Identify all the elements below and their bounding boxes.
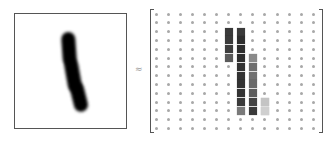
zero-dot bbox=[239, 127, 242, 130]
filled-cell bbox=[261, 107, 269, 115]
zero-dot bbox=[227, 83, 230, 86]
zero-dot bbox=[167, 83, 170, 86]
matrix-cell bbox=[152, 45, 161, 54]
matrix-cell bbox=[164, 89, 173, 98]
zero-dot bbox=[155, 21, 158, 24]
matrix-cell bbox=[200, 62, 209, 71]
matrix-cell bbox=[224, 106, 233, 115]
zero-dot bbox=[312, 48, 315, 51]
zero-dot bbox=[276, 127, 279, 130]
zero-dot bbox=[288, 57, 291, 60]
matrix-cell bbox=[309, 10, 318, 19]
matrix-cell bbox=[212, 10, 221, 19]
zero-dot bbox=[300, 13, 303, 16]
matrix-cell bbox=[236, 36, 245, 45]
zero-dot bbox=[215, 39, 218, 42]
zero-dot bbox=[227, 101, 230, 104]
matrix-cell bbox=[248, 36, 257, 45]
matrix-cell bbox=[260, 80, 269, 89]
zero-dot bbox=[288, 65, 291, 68]
matrix-cell bbox=[260, 54, 269, 63]
filled-cell bbox=[237, 72, 245, 80]
filled-cell bbox=[237, 98, 245, 106]
zero-dot bbox=[179, 13, 182, 16]
zero-dot bbox=[263, 127, 266, 130]
matrix-cell bbox=[236, 80, 245, 89]
matrix-cell bbox=[273, 115, 282, 124]
zero-dot bbox=[239, 13, 242, 16]
matrix-cell bbox=[260, 71, 269, 80]
zero-dot bbox=[312, 39, 315, 42]
matrix-cell bbox=[248, 54, 257, 63]
filled-cell bbox=[249, 98, 257, 106]
matrix-cell bbox=[273, 80, 282, 89]
matrix-cell bbox=[297, 71, 306, 80]
zero-dot bbox=[288, 109, 291, 112]
matrix-cell bbox=[164, 115, 173, 124]
matrix-cell bbox=[273, 89, 282, 98]
matrix-cell bbox=[248, 80, 257, 89]
zero-dot bbox=[179, 39, 182, 42]
zero-dot bbox=[263, 92, 266, 95]
zero-dot bbox=[203, 39, 206, 42]
matrix-cell bbox=[248, 89, 257, 98]
approx-symbol: ≈ bbox=[135, 64, 143, 74]
matrix-cell bbox=[285, 80, 294, 89]
matrix-cell bbox=[248, 18, 257, 27]
zero-dot bbox=[167, 74, 170, 77]
zero-dot bbox=[263, 74, 266, 77]
matrix-cell bbox=[188, 27, 197, 36]
filled-cell bbox=[225, 36, 233, 44]
zero-dot bbox=[251, 39, 254, 42]
zero-dot bbox=[215, 127, 218, 130]
filled-cell bbox=[225, 54, 233, 62]
zero-dot bbox=[191, 39, 194, 42]
matrix-cell bbox=[188, 80, 197, 89]
matrix-cell bbox=[236, 124, 245, 133]
zero-dot bbox=[312, 13, 315, 16]
zero-dot bbox=[203, 127, 206, 130]
matrix-cell bbox=[200, 10, 209, 19]
zero-dot bbox=[203, 30, 206, 33]
matrix-cell bbox=[224, 124, 233, 133]
zero-dot bbox=[276, 101, 279, 104]
filled-cell bbox=[261, 98, 269, 106]
matrix-cell bbox=[212, 106, 221, 115]
zero-dot bbox=[191, 118, 194, 121]
matrix-cell bbox=[152, 36, 161, 45]
matrix-cell bbox=[309, 89, 318, 98]
zero-dot bbox=[179, 83, 182, 86]
matrix-cell bbox=[236, 62, 245, 71]
zero-dot bbox=[276, 74, 279, 77]
matrix-cell bbox=[309, 115, 318, 124]
zero-dot bbox=[300, 65, 303, 68]
filled-cell bbox=[237, 63, 245, 71]
zero-dot bbox=[288, 83, 291, 86]
matrix-cell bbox=[285, 62, 294, 71]
matrix-cell bbox=[273, 27, 282, 36]
matrix-cell bbox=[164, 10, 173, 19]
zero-dot bbox=[227, 74, 230, 77]
matrix-cell bbox=[152, 124, 161, 133]
zero-dot bbox=[203, 57, 206, 60]
matrix-cell bbox=[152, 27, 161, 36]
zero-dot bbox=[167, 57, 170, 60]
matrix-cell bbox=[212, 124, 221, 133]
zero-dot bbox=[215, 74, 218, 77]
zero-dot bbox=[167, 39, 170, 42]
matrix-cell bbox=[224, 18, 233, 27]
zero-dot bbox=[288, 39, 291, 42]
matrix-cell bbox=[297, 45, 306, 54]
matrix-cell bbox=[200, 54, 209, 63]
zero-dot bbox=[215, 92, 218, 95]
matrix-cell bbox=[248, 62, 257, 71]
matrix-cell bbox=[176, 62, 185, 71]
matrix-cell bbox=[236, 115, 245, 124]
matrix-cell bbox=[285, 89, 294, 98]
zero-dot bbox=[191, 48, 194, 51]
matrix-cell bbox=[152, 106, 161, 115]
zero-dot bbox=[300, 57, 303, 60]
zero-dot bbox=[155, 92, 158, 95]
zero-dot bbox=[251, 127, 254, 130]
matrix-cell bbox=[188, 54, 197, 63]
